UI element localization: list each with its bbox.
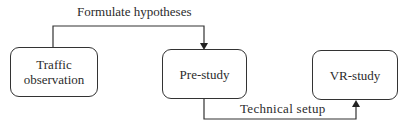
node-traffic-observation: Traffic observation	[10, 47, 98, 97]
node-vr-study: VR-study	[312, 50, 398, 100]
node-label: Pre-study	[180, 67, 230, 82]
node-label-line2: observation	[24, 72, 85, 87]
arrowhead-up-icon	[352, 100, 360, 107]
node-pre-study: Pre-study	[162, 49, 247, 99]
node-label-line1: Traffic	[24, 57, 85, 72]
edge-label-formulate-hypotheses: Formulate hypotheses	[77, 4, 191, 20]
node-label: VR-study	[330, 68, 381, 83]
edge-label-technical-setup: Technical setup	[240, 101, 326, 117]
